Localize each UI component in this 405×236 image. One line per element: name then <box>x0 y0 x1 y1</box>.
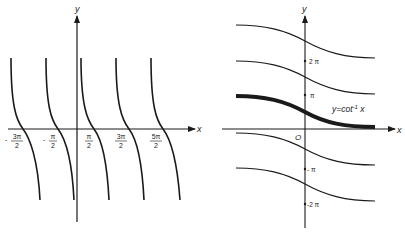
svg-text:-: - <box>5 136 8 143</box>
tick-label-2pi: 2 π <box>309 58 319 65</box>
tick-label-neg-pi-2: - π 2 <box>43 133 57 149</box>
left-y-axis-label: y <box>74 4 80 14</box>
tick-label-neg-3pi-2: - 3π 2 <box>5 133 23 149</box>
tick-label-neg-2pi: -2 π <box>307 201 320 208</box>
svg-text:5π: 5π <box>152 133 161 140</box>
tick-label-pi-2: π 2 <box>85 133 93 149</box>
svg-text:π: π <box>51 133 56 140</box>
diagram-canvas: x y - 3π 2 - π 2 <box>0 0 405 236</box>
svg-text:2: 2 <box>87 142 91 149</box>
svg-text:3π: 3π <box>13 133 22 140</box>
right-graph: x y O 2 π π - π -2 π y=cot-1 x <box>222 4 402 228</box>
svg-text:-: - <box>43 136 46 143</box>
svg-text:π: π <box>87 133 92 140</box>
tick-label-5pi-2: 5π 2 <box>150 133 162 149</box>
svg-text:2: 2 <box>119 142 123 149</box>
svg-text:3π: 3π <box>117 133 126 140</box>
left-x-tick-labels: - 3π 2 - π 2 π 2 3π 2 5π <box>5 133 162 149</box>
svg-text:2: 2 <box>51 142 55 149</box>
svg-text:2: 2 <box>154 142 158 149</box>
tick-label-pi: π <box>310 92 315 99</box>
tick-label-neg-pi: - π <box>307 166 316 173</box>
origin-label: O <box>295 133 301 142</box>
left-x-axis-label: x <box>196 124 202 134</box>
right-x-axis-label: x <box>396 125 402 135</box>
tick-label-3pi-2: 3π 2 <box>115 133 127 149</box>
right-y-axis-label: y <box>301 4 307 14</box>
svg-text:2: 2 <box>15 142 19 149</box>
left-graph: x y - 3π 2 - π 2 <box>5 4 202 222</box>
curve-label: y=cot-1 x <box>331 104 365 114</box>
